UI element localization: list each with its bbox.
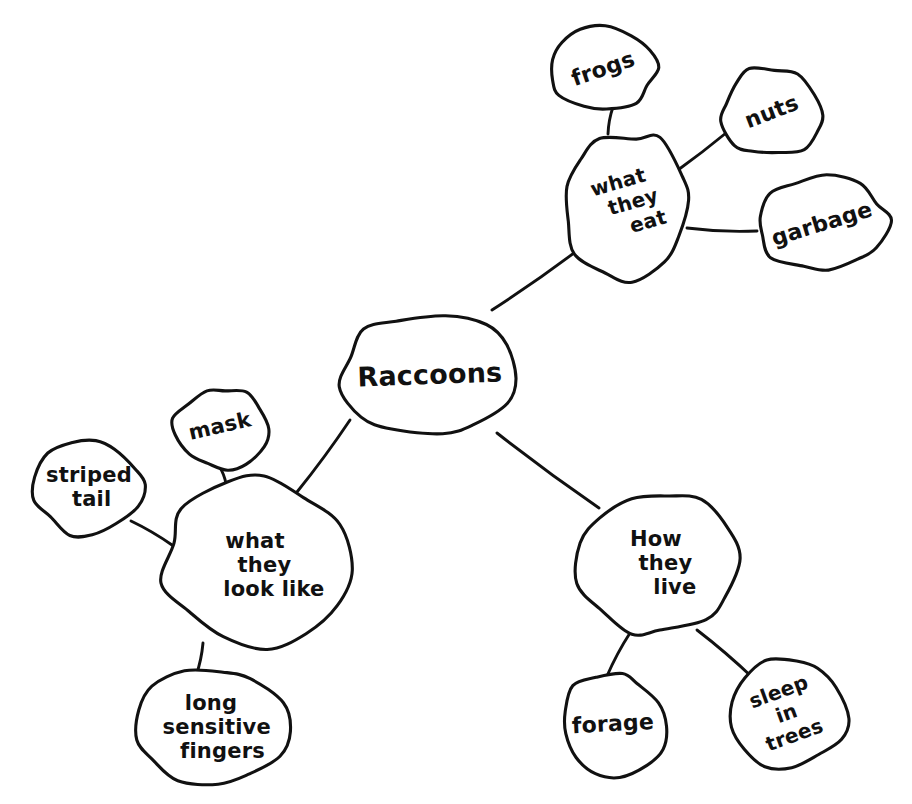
connector-raccoons-to-how-they-live [497,433,599,508]
node-bubble-what-they-look-like[interactable] [161,475,353,650]
node-bubble-what-they-eat[interactable] [566,135,689,283]
node-bubble-nuts[interactable] [721,68,823,153]
connector-how-they-live-to-forage [607,633,630,676]
node-bubble-garbage[interactable] [760,175,892,271]
connector-how-they-live-to-sleep-in-trees [697,630,753,678]
connector-raccoons-to-what-they-eat [492,250,578,310]
mindmap-drawing [0,0,912,804]
connector-what-they-look-like-to-striped-tail [131,521,172,545]
node-bubble-mask[interactable] [172,390,269,470]
mindmap-canvas: Raccoonswhattheyeatfrogsnutsgarbagewhatt… [0,0,912,804]
node-bubble-long-sensitive-fingers[interactable] [136,670,291,785]
connector-what-they-eat-to-garbage [687,228,757,231]
blob-layer [32,25,891,784]
node-bubble-how-they-live[interactable] [575,496,740,636]
node-bubble-frogs[interactable] [552,25,659,109]
connector-what-they-eat-to-nuts [678,133,726,170]
connector-what-they-eat-to-frogs [608,107,613,134]
node-bubble-raccoons[interactable] [339,316,516,434]
node-bubble-striped-tail[interactable] [32,440,145,537]
node-bubble-sleep-in-trees[interactable] [730,659,849,769]
node-bubble-forage[interactable] [564,673,666,778]
connector-raccoons-to-what-they-look-like [297,420,350,492]
